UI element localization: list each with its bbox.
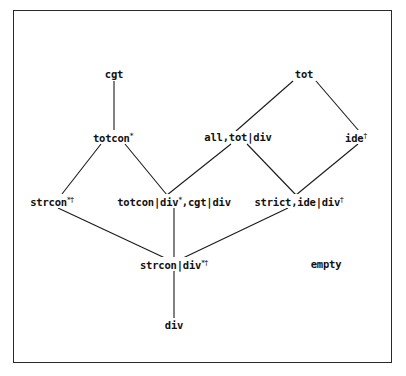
node-label: strcon|div <box>140 259 201 271</box>
node-label: strict,ide|div <box>254 196 340 208</box>
node-label-suffix: ,cgt|div <box>182 196 231 208</box>
node-totcon-div-cgt-div: totcon|div*,cgt|div <box>116 194 232 208</box>
node-strcon-div: strcon|div*† <box>139 257 209 271</box>
node-annotation-mark: † <box>340 195 343 204</box>
edge-tot-to-ide <box>316 81 359 131</box>
edge-strcon-to-strcon_div <box>58 208 165 258</box>
edge-totcon-to-strcon <box>62 144 101 194</box>
node-tot: tot <box>294 68 314 80</box>
node-empty: empty <box>310 258 343 270</box>
node-cgt: cgt <box>104 68 124 80</box>
edge-all_tot_div-to-totcon_div_cgt_div <box>167 144 231 195</box>
node-annotation-mark: *† <box>201 258 208 267</box>
node-label: totcon <box>93 132 130 144</box>
node-label: strcon <box>30 196 67 208</box>
node-strcon: strcon*† <box>29 194 75 208</box>
lattice-edges <box>0 0 406 376</box>
node-all-tot-div: all,tot|div <box>203 131 272 143</box>
edge-ide-to-strict_ide_div <box>296 144 358 195</box>
node-label: all,tot|div <box>204 131 271 143</box>
node-label: totcon|div <box>117 196 178 208</box>
edge-all_tot_div-to-strict_ide_div <box>247 144 296 195</box>
edge-strict_ide_div-to-strcon_div <box>183 208 288 258</box>
edge-tot-to-all_tot_div <box>236 81 293 131</box>
node-label: tot <box>295 68 313 80</box>
node-div: div <box>164 319 184 331</box>
node-annotation-mark: * <box>130 131 133 140</box>
node-label: empty <box>311 258 342 270</box>
node-label: div <box>165 319 183 331</box>
node-annotation-mark: † <box>363 131 366 140</box>
node-annotation-mark: *† <box>67 195 74 204</box>
node-ide: ide† <box>344 130 368 144</box>
edge-totcon-to-totcon_div_cgt_div <box>125 144 167 195</box>
node-totcon: totcon* <box>92 130 134 144</box>
node-label: cgt <box>105 68 123 80</box>
node-label: ide <box>345 132 363 144</box>
node-strict-ide-div: strict,ide|div† <box>253 194 344 208</box>
